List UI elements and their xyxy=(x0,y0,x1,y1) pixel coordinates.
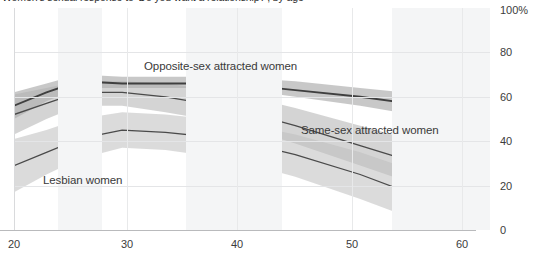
gridline-horizontal xyxy=(14,52,490,53)
plot-clip xyxy=(14,8,490,230)
y-tick-40: 40 xyxy=(500,135,512,147)
gridline-vertical xyxy=(462,8,463,230)
x-axis-line xyxy=(0,230,476,231)
x-tick-20: 20 xyxy=(8,238,20,250)
x-tick-30: 30 xyxy=(121,238,133,250)
series-label-opposite-sex-attracted-women: Opposite-sex attracted women xyxy=(144,60,297,72)
y-axis-line xyxy=(14,8,15,230)
y-tick-60: 60 xyxy=(500,91,512,103)
background-band xyxy=(392,8,490,230)
gridline-vertical xyxy=(127,8,128,230)
gridline-horizontal xyxy=(14,97,490,98)
gridline-vertical xyxy=(352,8,353,230)
x-tick-40: 40 xyxy=(231,238,243,250)
chart-title: Women's sexual response to 'Do you want … xyxy=(2,0,304,3)
background-band xyxy=(186,8,282,230)
y-tick-100: 100% xyxy=(500,4,528,16)
gridline-vertical xyxy=(237,8,238,230)
plot-area xyxy=(14,8,490,230)
x-tick-60: 60 xyxy=(456,238,468,250)
y-tick-80: 80 xyxy=(500,46,512,58)
x-tick-50: 50 xyxy=(346,238,358,250)
series-label-same-sex-attracted-women: Same-sex attracted women xyxy=(301,124,439,136)
gridline-horizontal xyxy=(14,186,490,187)
series-label-lesbian-women: Lesbian women xyxy=(43,174,122,186)
background-band xyxy=(58,8,102,230)
y-tick-0: 0 xyxy=(500,224,506,236)
gridline-horizontal xyxy=(14,141,490,142)
y-tick-20: 20 xyxy=(500,180,512,192)
